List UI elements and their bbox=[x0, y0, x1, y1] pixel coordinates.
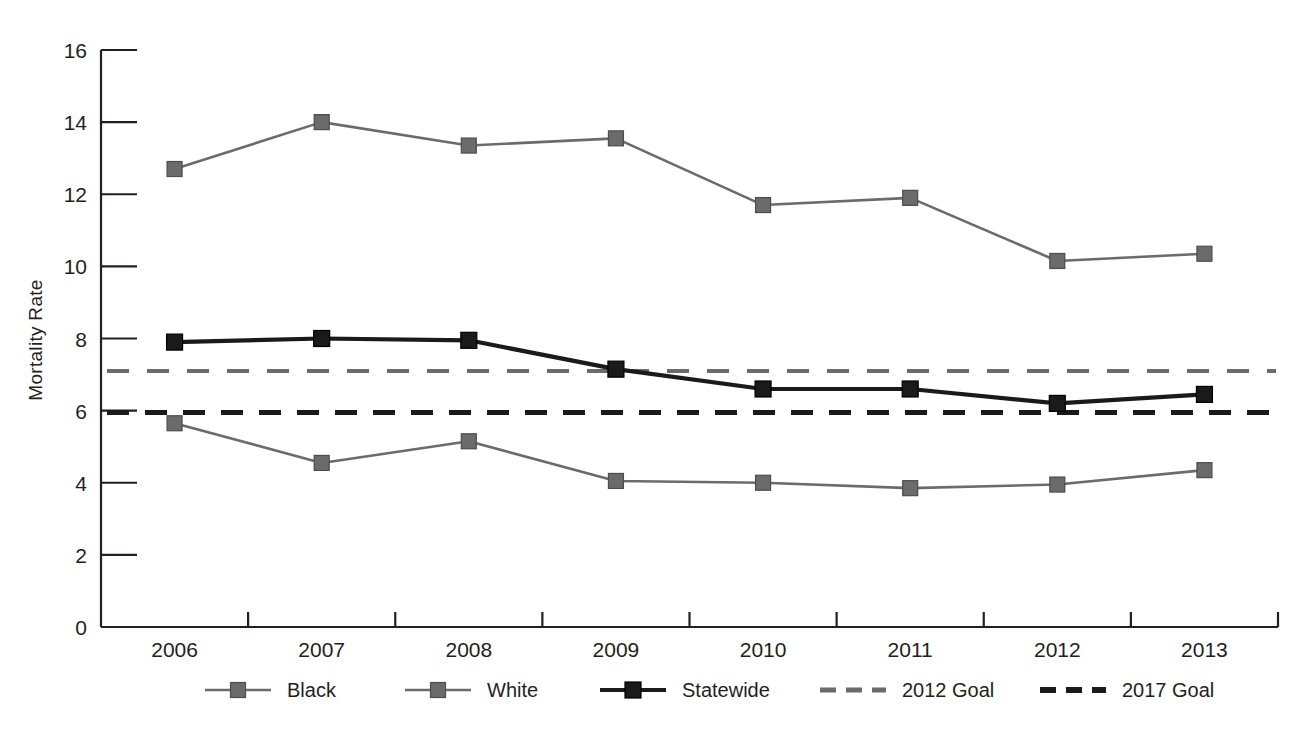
data-point-marker bbox=[167, 334, 183, 350]
data-point-marker bbox=[314, 455, 329, 470]
x-tick-label: 2009 bbox=[593, 638, 640, 661]
data-point-marker bbox=[1197, 463, 1212, 478]
data-point-marker bbox=[1196, 386, 1212, 402]
y-tick-label: 8 bbox=[75, 328, 87, 351]
legend-item-statewide[interactable]: Statewide bbox=[600, 679, 770, 701]
x-tick-label: 2013 bbox=[1181, 638, 1228, 661]
series-line-black bbox=[175, 122, 1205, 261]
legend-item-2017-goal[interactable]: 2017 Goal bbox=[1040, 679, 1214, 701]
data-point-marker bbox=[314, 115, 329, 130]
legend-item-label: Statewide bbox=[682, 679, 770, 701]
y-axis-label-text: Mortality Rate bbox=[25, 279, 46, 400]
data-point-marker bbox=[314, 331, 330, 347]
data-point-marker bbox=[903, 481, 918, 496]
y-tick-label: 12 bbox=[64, 183, 87, 206]
x-tick-label: 2012 bbox=[1034, 638, 1081, 661]
data-point-marker bbox=[167, 162, 182, 177]
x-tick-label: 2010 bbox=[740, 638, 787, 661]
legend-item-2012-goal[interactable]: 2012 Goal bbox=[820, 679, 994, 701]
legend-item-white[interactable]: White bbox=[405, 679, 538, 701]
data-point-marker bbox=[461, 434, 476, 449]
legend-item-label: White bbox=[487, 679, 538, 701]
data-point-marker bbox=[608, 361, 624, 377]
y-axis-label: Mortality Rate bbox=[25, 279, 46, 400]
chart-canvas: Mortality Rate 0246810121416 20062007200… bbox=[0, 0, 1314, 744]
data-point-marker bbox=[461, 138, 476, 153]
legend-item-black[interactable]: Black bbox=[205, 679, 337, 701]
data-point-marker bbox=[755, 381, 771, 397]
data-point-marker bbox=[461, 332, 477, 348]
data-point-marker bbox=[1197, 246, 1212, 261]
data-point-marker bbox=[902, 381, 918, 397]
x-tick-label: 2008 bbox=[445, 638, 492, 661]
data-point-marker bbox=[1050, 477, 1065, 492]
legend-item-label: Black bbox=[287, 679, 337, 701]
legend-item-label: 2017 Goal bbox=[1122, 679, 1214, 701]
data-point-marker bbox=[1049, 395, 1065, 411]
y-tick-label: 4 bbox=[75, 472, 87, 495]
mortality-rate-line-chart: Mortality Rate 0246810121416 20062007200… bbox=[0, 0, 1314, 744]
data-point-marker bbox=[903, 190, 918, 205]
y-tick-label: 14 bbox=[64, 111, 88, 134]
x-tick-label: 2007 bbox=[298, 638, 345, 661]
x-axis-ticks bbox=[248, 612, 1278, 627]
y-tick-label: 6 bbox=[75, 400, 87, 423]
x-tick-label: 2011 bbox=[888, 638, 933, 661]
data-point-marker bbox=[608, 131, 623, 146]
data-point-marker bbox=[167, 416, 182, 431]
data-point-marker bbox=[608, 473, 623, 488]
y-tick-label: 0 bbox=[75, 616, 87, 639]
series-line-statewide bbox=[175, 339, 1205, 404]
y-tick-label: 10 bbox=[64, 255, 87, 278]
legend-item-label: 2012 Goal bbox=[902, 679, 994, 701]
legend-swatch-marker bbox=[231, 683, 246, 698]
x-axis-tick-labels: 20062007200820092010201120122013 bbox=[151, 638, 1228, 661]
legend-swatch-marker bbox=[431, 683, 446, 698]
data-point-marker bbox=[1050, 253, 1065, 268]
y-tick-label: 2 bbox=[75, 544, 87, 567]
y-tick-label: 16 bbox=[64, 39, 87, 62]
x-tick-label: 2006 bbox=[151, 638, 198, 661]
data-point-marker bbox=[756, 198, 771, 213]
data-point-marker bbox=[756, 475, 771, 490]
legend-swatch-marker bbox=[625, 682, 641, 698]
series-layer bbox=[107, 115, 1276, 496]
chart-legend: BlackWhiteStatewide2012 Goal2017 Goal bbox=[205, 679, 1214, 701]
